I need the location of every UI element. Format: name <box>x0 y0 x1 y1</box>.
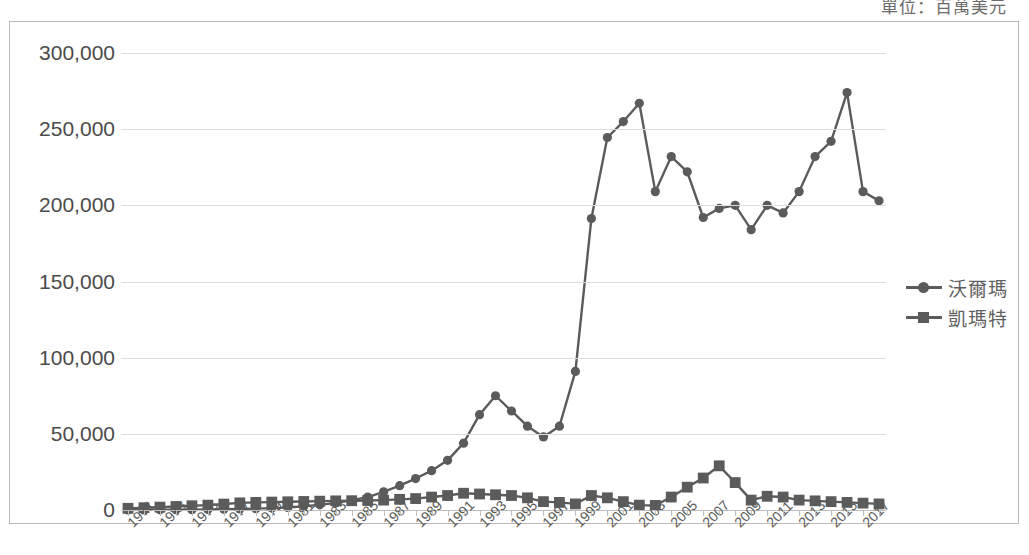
legend-label: 沃爾瑪 <box>948 274 1008 301</box>
data-point-marker <box>602 492 613 503</box>
data-point-marker <box>779 208 788 217</box>
data-point-marker <box>826 137 835 146</box>
gridline <box>121 205 886 206</box>
data-point-marker <box>635 99 644 108</box>
chart-legend: 沃爾瑪凱瑪特 <box>906 272 1026 332</box>
data-point-marker <box>523 422 532 431</box>
data-point-marker <box>730 477 741 488</box>
data-point-marker <box>411 474 420 483</box>
data-point-marker <box>475 410 484 419</box>
data-point-marker <box>699 213 708 222</box>
chart-screenshot: 單位：百萬美元 050,000100,000150,000200,000250,… <box>0 0 1029 555</box>
data-point-marker <box>874 196 883 205</box>
data-point-marker <box>587 214 596 223</box>
data-point-marker <box>395 481 404 490</box>
data-point-marker <box>603 133 612 142</box>
data-point-marker <box>795 187 804 196</box>
series-line <box>128 93 879 510</box>
square-marker-icon <box>906 310 942 324</box>
x-axis-tick <box>751 510 752 516</box>
data-point-marker <box>491 391 500 400</box>
data-point-marker <box>794 495 805 506</box>
legend-marker <box>918 312 929 323</box>
data-point-marker <box>538 496 549 507</box>
data-point-marker <box>858 187 867 196</box>
unit-caption: 單位：百萬美元 <box>881 0 1007 18</box>
data-point-marker <box>458 488 469 499</box>
x-axis-tick <box>304 510 305 516</box>
data-point-marker <box>747 225 756 234</box>
legend-marker <box>918 282 929 293</box>
x-axis-tick <box>655 510 656 516</box>
data-point-marker <box>826 496 837 507</box>
data-point-marker <box>571 367 580 376</box>
plot-area <box>121 53 886 510</box>
x-axis-tick <box>176 510 177 516</box>
data-point-marker <box>282 496 293 507</box>
x-axis-tick <box>623 510 624 516</box>
x-axis-tick <box>847 510 848 516</box>
data-point-marker <box>762 491 773 502</box>
y-axis: 050,000100,000150,000200,000250,000300,0… <box>10 53 115 510</box>
data-point-marker <box>314 496 325 507</box>
x-axis-tick <box>272 510 273 516</box>
gridline <box>121 434 886 435</box>
x-axis-tick <box>464 510 465 516</box>
data-point-marker <box>427 466 436 475</box>
data-point-marker <box>507 406 516 415</box>
data-point-marker <box>410 493 421 504</box>
x-axis-tick <box>559 510 560 516</box>
y-axis-tick-label: 50,000 <box>15 422 115 446</box>
x-axis-tick <box>687 510 688 516</box>
data-point-marker <box>651 187 660 196</box>
circle-marker-icon <box>906 280 942 294</box>
data-point-marker <box>619 117 628 126</box>
y-axis-tick-label: 250,000 <box>15 117 115 141</box>
x-axis-tick <box>400 510 401 516</box>
legend-label: 凱瑪特 <box>948 304 1008 331</box>
data-point-marker <box>378 495 389 506</box>
x-axis-tick <box>879 510 880 516</box>
data-point-marker <box>714 460 725 471</box>
y-axis-tick-label: 150,000 <box>15 270 115 294</box>
x-axis-tick <box>208 510 209 516</box>
data-point-marker <box>506 490 517 501</box>
gridline <box>121 358 886 359</box>
gridline <box>121 129 886 130</box>
data-point-marker <box>810 152 819 161</box>
gridline <box>121 53 886 54</box>
data-point-marker <box>683 167 692 176</box>
y-axis-tick-label: 200,000 <box>15 193 115 217</box>
x-axis-tick <box>368 510 369 516</box>
data-point-marker <box>698 473 709 484</box>
data-point-marker <box>442 490 453 501</box>
legend-item-1[interactable]: 沃爾瑪 <box>906 272 1026 302</box>
x-axis-tick <box>527 510 528 516</box>
legend-item-2[interactable]: 凱瑪特 <box>906 302 1026 332</box>
data-point-marker <box>443 456 452 465</box>
gridline <box>121 282 886 283</box>
data-point-marker <box>474 489 485 500</box>
chart-frame: 050,000100,000150,000200,000250,000300,0… <box>9 21 1019 524</box>
data-point-marker <box>666 492 677 503</box>
x-axis-tick <box>240 510 241 516</box>
data-point-marker <box>842 88 851 97</box>
x-axis-tick <box>591 510 592 516</box>
x-axis-tick <box>432 510 433 516</box>
x-axis-tick <box>815 510 816 516</box>
x-axis-tick <box>144 510 145 516</box>
data-point-marker <box>682 482 693 493</box>
data-point-marker <box>459 439 468 448</box>
x-axis-tick <box>336 510 337 516</box>
series-circle <box>123 88 883 515</box>
data-point-marker <box>555 422 564 431</box>
y-axis-tick-label: 100,000 <box>15 346 115 370</box>
y-axis-tick-label: 0 <box>15 498 115 522</box>
x-axis-tick <box>783 510 784 516</box>
data-point-marker <box>346 495 357 506</box>
data-point-marker <box>667 152 676 161</box>
x-axis-tick <box>496 510 497 516</box>
x-axis-tick <box>719 510 720 516</box>
y-axis-tick-label: 300,000 <box>15 41 115 65</box>
